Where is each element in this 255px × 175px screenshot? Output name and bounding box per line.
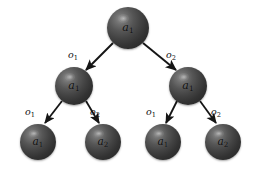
edge-root-to-left-child: [86, 43, 113, 70]
tree-diagram: a1 a1 a1 a1 a2 a1 a2 o1 o2: [0, 0, 255, 175]
tree-node-left-child-label: a1: [68, 80, 79, 92]
tree-node-leaf-3: a1: [145, 124, 181, 160]
edge-label-right-leaf-1: o1: [146, 107, 156, 118]
tree-node-leaf-2-label: a2: [98, 136, 109, 148]
edge-label-root-right: o2: [166, 50, 176, 61]
edge-label-root-left: o1: [68, 50, 78, 61]
edge-label-left-leaf-2: o2: [90, 107, 100, 118]
tree-node-leaf-2: a2: [85, 124, 121, 160]
edge-label-left-leaf-1: o1: [25, 107, 35, 118]
tree-node-leaf-1-label: a1: [33, 136, 44, 148]
tree-node-left-child: a1: [55, 67, 93, 105]
edge-label-right-leaf-2: o2: [211, 107, 221, 118]
tree-node-leaf-3-label: a1: [158, 136, 169, 148]
tree-node-leaf-4: a2: [205, 124, 241, 160]
tree-node-right-child: a1: [169, 67, 207, 105]
tree-node-leaf-1: a1: [20, 124, 56, 160]
tree-node-leaf-4-label: a2: [218, 136, 229, 148]
edge-left-child-to-leaf-1: [45, 101, 62, 123]
tree-node-root-label: a1: [122, 22, 133, 34]
edge-right-child-to-leaf-3: [166, 101, 177, 123]
tree-node-root: a1: [107, 7, 149, 49]
tree-node-right-child-label: a1: [182, 80, 193, 92]
